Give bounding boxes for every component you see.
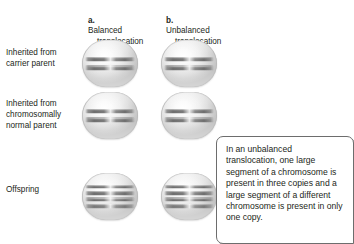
- chromosome-band: [85, 66, 135, 71]
- caption-box: In an unbalanced translocation, one larg…: [216, 136, 354, 244]
- row-label-inherited-carrier-parent: Inherited from carrier parent: [6, 47, 82, 69]
- chromosome-band: [85, 191, 135, 195]
- cell-balanced-normal-parent: [82, 92, 138, 139]
- chromosome-band: [164, 198, 214, 202]
- chromosome-band: [164, 109, 214, 114]
- chromosome-band: [85, 109, 135, 114]
- chromosome-band: [85, 198, 135, 202]
- cell-unbalanced-offspring: [161, 173, 217, 220]
- column-marker-a: a.: [88, 16, 95, 25]
- chromosome-band: [164, 204, 214, 208]
- chromosome-band: [85, 204, 135, 208]
- chromosome-group: [161, 57, 217, 70]
- column-title-a-line1: Balanced: [88, 26, 122, 35]
- chromosome-band: [164, 191, 214, 195]
- cell-balanced-carrier-parent: [82, 40, 138, 87]
- cell-unbalanced-carrier-parent: [161, 40, 217, 87]
- column-marker-b: b.: [166, 16, 173, 25]
- chromosome-band: [164, 66, 214, 71]
- cell-unbalanced-normal-parent: [161, 92, 217, 139]
- row-label-offspring: Offspring: [6, 184, 82, 195]
- chromosome-band: [164, 118, 214, 123]
- chromosome-group: [161, 109, 217, 122]
- chromosome-band: [85, 57, 135, 62]
- cell-balanced-offspring: [82, 173, 138, 220]
- chromosome-band: [164, 57, 214, 62]
- row-label-inherited-normal-parent: Inherited from chromosomally normal pare…: [6, 98, 82, 131]
- chromosome-band: [164, 185, 214, 189]
- chromosome-group: [161, 185, 217, 208]
- chromosome-band: [85, 118, 135, 123]
- chromosome-group: [82, 185, 138, 208]
- chromosome-group: [82, 109, 138, 122]
- chromosome-band: [85, 185, 135, 189]
- column-title-b-line1: Unbalanced: [166, 26, 210, 35]
- chromosome-group: [82, 57, 138, 70]
